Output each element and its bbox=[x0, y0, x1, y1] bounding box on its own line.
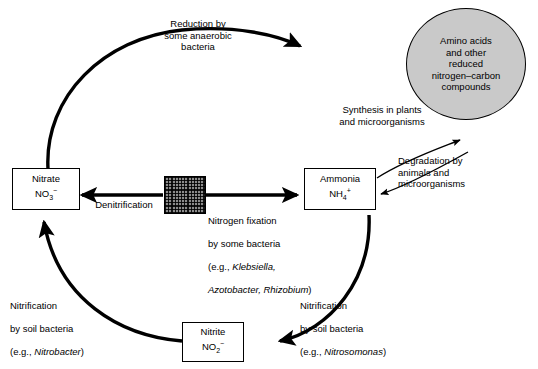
label-nitrification-left-line1: Nitrification bbox=[10, 300, 120, 312]
label-nitrification-nitrobacter: Nitrification by soil bacteria (e.g., Ni… bbox=[10, 288, 120, 369]
label-nitrification-right-line3: (e.g., Nitrosomonas) bbox=[300, 346, 425, 358]
label-degradation: Degradation by animals and microorganism… bbox=[398, 155, 518, 190]
node-ammonia-label: Ammonia bbox=[320, 173, 360, 185]
label-nitrification-right-line1: Nitrification bbox=[300, 300, 425, 312]
label-nitrification-left-line2: by soil bacteria bbox=[10, 323, 120, 335]
label-denitrification: Denitrification bbox=[82, 199, 166, 211]
node-nitrate-label: Nitrate bbox=[32, 173, 60, 185]
label-nitrogen-fixation-line1: Nitrogen fixation bbox=[208, 215, 328, 227]
label-reduction: Reduction by some anaerobic bacteria bbox=[133, 18, 263, 53]
label-nitrification-left-line3: (e.g., Nitrobacter) bbox=[10, 346, 120, 358]
label-nitrification-right-line2: by soil bacteria bbox=[300, 323, 425, 335]
node-nitrite: Nitrite NO2− bbox=[182, 322, 244, 362]
label-synthesis: Synthesis in plants and microorganisms bbox=[322, 104, 442, 127]
node-nitrate: Nitrate NO3− bbox=[12, 168, 80, 210]
shaded-block-icon bbox=[164, 176, 206, 214]
label-nitrogen-fixation-line2: by some bacteria bbox=[208, 238, 328, 250]
node-ammonia-formula: NH4+ bbox=[329, 185, 351, 204]
node-nitrite-formula: NO2− bbox=[202, 338, 224, 357]
node-nitrate-formula: NO3− bbox=[35, 185, 57, 204]
label-nitrogen-fixation-line3: (e.g., Klebsiella, bbox=[208, 261, 328, 273]
nitrogen-cycle-diagram: Nitrate NO3− Ammonia NH4+ Nitrite NO2− A… bbox=[0, 0, 538, 369]
node-amino-acids-label: Amino acids and other reduced nitrogen–c… bbox=[432, 35, 501, 93]
label-nitrification-nitrosomonas: Nitrification by soil bacteria (e.g., Ni… bbox=[300, 288, 425, 369]
node-nitrite-label: Nitrite bbox=[201, 326, 226, 338]
